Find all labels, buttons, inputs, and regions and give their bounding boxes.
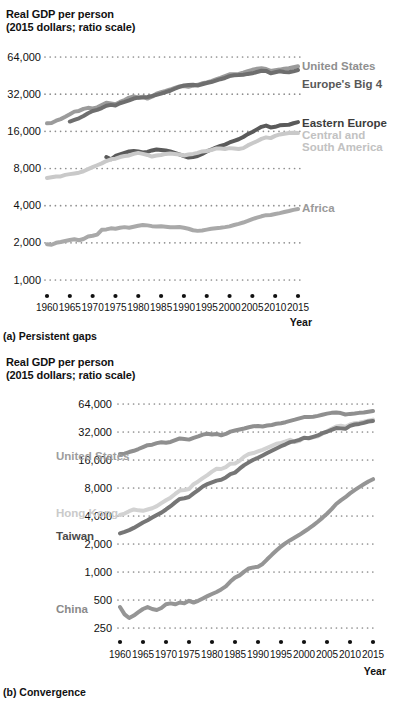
x-tick-label: 1960 — [109, 649, 132, 660]
series-label-text: Europe's Big 4 — [302, 78, 383, 90]
x-tick-label: 2015 — [287, 302, 310, 313]
x-tick-label: 2010 — [339, 649, 362, 660]
panel-a-plot: 64,00032,00016,0008,0004,0002,0001,000Un… — [0, 0, 394, 320]
x-tick-dot — [371, 640, 375, 644]
gridline-1000 — [44, 279, 301, 281]
series-label-taiwan: Taiwan — [56, 530, 94, 542]
x-tick-label: 1975 — [178, 649, 201, 660]
x-tick-dot — [296, 294, 300, 298]
series-label-text: Central and — [302, 129, 365, 141]
x-tick-label: 2005 — [316, 649, 339, 660]
y-tick-label: 8,000 — [13, 162, 41, 174]
x-tick-label: 1995 — [196, 302, 219, 313]
y-tick-label: 250 — [94, 622, 112, 634]
x-tick-label: 1970 — [155, 649, 178, 660]
series-label-text: Africa — [302, 202, 335, 214]
series-label-hong-kong: Hong Kong — [56, 507, 118, 519]
series-label-text: United States — [302, 60, 376, 72]
x-tick-dot — [68, 294, 72, 298]
panel-b-caption: (b) Convergence — [3, 686, 86, 698]
x-tick-dot — [187, 640, 191, 644]
series-label-united-states: United States — [56, 450, 130, 462]
x-tick-dot — [164, 640, 168, 644]
gridline-32000 — [44, 93, 301, 95]
gridline-500 — [117, 599, 374, 601]
x-tick-dot — [227, 294, 231, 298]
x-tick-label: 1985 — [224, 649, 247, 660]
x-tick-label: 2010 — [264, 302, 287, 313]
x-tick-dot — [91, 294, 95, 298]
x-tick-label: 1975 — [104, 302, 127, 313]
gridline-64000 — [44, 56, 301, 58]
x-tick-dot — [250, 294, 254, 298]
panel-b-plot: 64,00032,00016,0008,0004,0002,0001,00050… — [0, 350, 394, 680]
series-line-united-states — [120, 411, 373, 454]
x-tick-dot — [118, 640, 122, 644]
x-tick-dot — [348, 640, 352, 644]
gridline-8000 — [117, 487, 374, 489]
chart-panel-b: Real GDP per person (2015 dollars; ratio… — [0, 350, 394, 701]
x-axis-name: Year — [364, 665, 386, 677]
x-tick-dot — [210, 640, 214, 644]
x-tick-dot — [45, 294, 49, 298]
x-tick-label: 1960 — [36, 302, 59, 313]
gridline-16000 — [44, 130, 301, 132]
x-tick-label: 1995 — [270, 649, 293, 660]
series-label-text: Hong Kong — [56, 507, 118, 519]
x-tick-dot — [325, 640, 329, 644]
series-line-china — [120, 479, 373, 618]
x-axis-name: Year — [290, 316, 312, 328]
y-tick-label: 32,000 — [7, 88, 41, 100]
series-label-text: United States — [56, 450, 130, 462]
gridline-4000 — [44, 205, 301, 207]
x-tick-label: 1970 — [82, 302, 105, 313]
x-tick-label: 2015 — [362, 649, 385, 660]
series-label-eastern-europe: Eastern Europe — [302, 117, 387, 129]
gridline-16000 — [117, 459, 374, 461]
y-tick-label: 32,000 — [78, 426, 112, 438]
series-line-central-and-south-america — [47, 133, 298, 178]
panel-a-caption: (a) Persistent gaps — [3, 330, 97, 342]
x-tick-label: 1980 — [201, 649, 224, 660]
y-tick-label: 1,000 — [84, 566, 112, 578]
series-label-text: Taiwan — [56, 530, 94, 542]
x-tick-label: 2005 — [241, 302, 264, 313]
series-label-china: China — [56, 603, 89, 615]
y-tick-label: 16,000 — [7, 125, 41, 137]
x-tick-dot — [279, 640, 283, 644]
gridline-8000 — [44, 168, 301, 170]
y-tick-label: 500 — [94, 594, 112, 606]
series-line-europe-s-big-4 — [70, 70, 298, 122]
y-tick-label: 1,000 — [13, 274, 41, 286]
x-tick-label: 2000 — [218, 302, 241, 313]
y-tick-label: 8,000 — [84, 482, 112, 494]
y-tick-label: 64,000 — [78, 398, 112, 410]
x-tick-label: 1990 — [173, 302, 196, 313]
series-label-text: South America — [302, 141, 383, 153]
x-tick-dot — [302, 640, 306, 644]
series-label-text: Eastern Europe — [302, 117, 387, 129]
y-tick-label: 64,000 — [7, 51, 41, 63]
x-tick-label: 1965 — [132, 649, 155, 660]
gridline-2000 — [44, 242, 301, 244]
series-label-text: China — [56, 603, 89, 615]
x-tick-dot — [136, 294, 140, 298]
chart-panel-a: Real GDP per person (2015 dollars; ratio… — [0, 0, 394, 350]
gridline-2000 — [117, 543, 374, 545]
gridline-32000 — [117, 431, 374, 433]
x-tick-label: 1990 — [247, 649, 270, 660]
y-tick-label: 4,000 — [13, 199, 41, 211]
series-label-africa: Africa — [302, 202, 335, 214]
series-line-taiwan — [120, 421, 373, 533]
x-tick-dot — [182, 294, 186, 298]
x-tick-label: 2000 — [293, 649, 316, 660]
x-tick-dot — [233, 640, 237, 644]
x-tick-dot — [159, 294, 163, 298]
x-tick-dot — [141, 640, 145, 644]
series-label-europe-s-big-4: Europe's Big 4 — [302, 78, 383, 90]
x-tick-label: 1985 — [150, 302, 173, 313]
series-line-hong-kong — [120, 420, 373, 515]
y-tick-label: 2,000 — [13, 236, 41, 248]
x-tick-label: 1965 — [59, 302, 82, 313]
x-tick-dot — [273, 294, 277, 298]
